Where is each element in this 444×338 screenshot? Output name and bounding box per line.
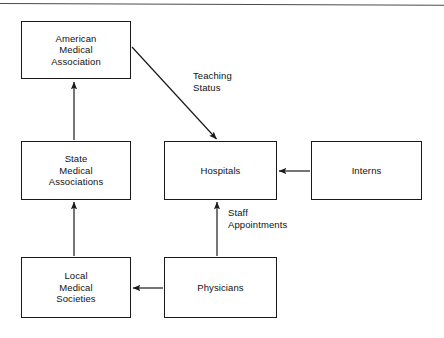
node-state-medical-associations: State Medical Associations: [21, 141, 131, 200]
node-physicians: Physicians: [164, 257, 277, 318]
node-label-physicians: Physicians: [197, 282, 243, 294]
node-label-local-medical-societies: Local Medical Societies: [56, 270, 95, 305]
node-american-medical-association: American Medical Association: [21, 21, 131, 79]
node-hospitals: Hospitals: [164, 141, 277, 200]
edge-ama-to-hospitals: [132, 47, 217, 139]
edge-label-teaching-status: Teaching Status: [193, 70, 232, 93]
node-local-medical-societies: Local Medical Societies: [21, 257, 131, 318]
edge-label-staff-appointments: Staff Appointments: [228, 207, 287, 230]
node-interns: Interns: [311, 141, 422, 200]
node-label-interns: Interns: [352, 165, 382, 177]
node-label-american-medical-association: American Medical Association: [51, 33, 101, 68]
node-label-hospitals: Hospitals: [201, 165, 241, 177]
node-label-state-medical-associations: State Medical Associations: [49, 153, 104, 188]
diagram-canvas: American Medical Association State Medic…: [0, 0, 444, 338]
